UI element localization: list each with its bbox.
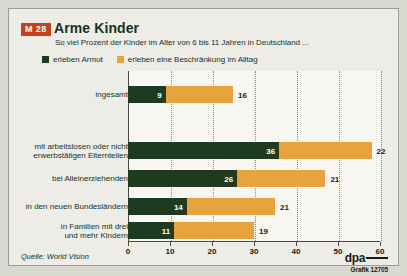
bar-value-beschraenkung: 22 bbox=[377, 146, 386, 155]
bar-segment-beschraenkung bbox=[166, 86, 233, 103]
category-label-line: und mehr Kindern bbox=[13, 231, 128, 240]
dpa-logo-text: dpa bbox=[345, 252, 365, 264]
bar-value-beschraenkung: 19 bbox=[259, 226, 268, 235]
legend-label: erleben Armut bbox=[53, 55, 103, 64]
x-tick-60 bbox=[380, 242, 381, 246]
bar-value-armut: 14 bbox=[174, 202, 183, 211]
bar-segment-beschraenkung bbox=[279, 142, 371, 159]
bar-value-armut: 9 bbox=[157, 90, 161, 99]
legend-label: erleben eine Beschränkung im Alltag bbox=[128, 55, 258, 64]
legend-swatch-icon bbox=[117, 56, 124, 63]
bar-segment-armut: 11 bbox=[128, 222, 174, 239]
chart-subtitle: So viel Prozent der Kinder im Alter von … bbox=[55, 38, 309, 47]
bar-segment-beschraenkung bbox=[237, 170, 325, 187]
category-label: in den neuen Bundesländern bbox=[13, 202, 132, 211]
bar-segment-armut: 14 bbox=[128, 198, 187, 215]
x-tick-label-20: 20 bbox=[208, 247, 217, 256]
chart-row: bei Alleinerziehenden2621 bbox=[9, 170, 400, 187]
x-tick-label-60: 60 bbox=[376, 247, 385, 256]
category-label-line: ingesamt bbox=[13, 90, 128, 99]
x-tick-50 bbox=[338, 242, 339, 246]
bar-value-armut: 11 bbox=[162, 226, 170, 235]
bar-value-armut: 26 bbox=[224, 174, 233, 183]
page-title: Arme Kinder bbox=[54, 20, 139, 36]
bar-value-beschraenkung: 16 bbox=[238, 90, 247, 99]
chart-row: in Familien mit dreiund mehr Kindern1119 bbox=[9, 222, 400, 239]
x-tick-10 bbox=[170, 242, 171, 246]
x-tick-label-10: 10 bbox=[166, 247, 175, 256]
category-label: mit arbeitslosen oder nichterwerbstätige… bbox=[13, 142, 132, 160]
category-label-line: mit arbeitslosen oder nicht bbox=[13, 142, 128, 151]
category-label: bei Alleinerziehenden bbox=[13, 174, 132, 183]
bar-segment-armut: 36 bbox=[128, 142, 279, 159]
category-label-line: in Familien mit drei bbox=[13, 222, 128, 231]
bar-segment-beschraenkung bbox=[174, 222, 254, 239]
bar-value-beschraenkung: 21 bbox=[330, 174, 339, 183]
chart-row: in den neuen Bundesländern1421 bbox=[9, 198, 400, 215]
infographic-card: M 28 Arme Kinder So viel Prozent der Kin… bbox=[8, 8, 399, 266]
x-tick-label-0: 0 bbox=[126, 247, 130, 256]
module-badge: M 28 bbox=[21, 23, 51, 36]
chart-row: ingesamt916 bbox=[9, 86, 400, 103]
category-label: ingesamt bbox=[13, 90, 132, 99]
dpa-logo-rule bbox=[366, 257, 388, 259]
category-label-line: erwerbstätigen Elternteilen bbox=[13, 151, 128, 160]
category-label-line: bei Alleinerziehenden bbox=[13, 174, 128, 183]
bar-segment-armut: 26 bbox=[128, 170, 237, 187]
x-tick-label-40: 40 bbox=[292, 247, 301, 256]
x-tick-20 bbox=[212, 242, 213, 246]
bar-value-armut: 36 bbox=[266, 146, 275, 155]
bar-segment-armut: 9 bbox=[128, 86, 166, 103]
bar-segment-beschraenkung bbox=[187, 198, 275, 215]
legend-item-1: erleben eine Beschränkung im Alltag bbox=[117, 55, 258, 64]
category-label-line: in den neuen Bundesländern bbox=[13, 202, 128, 211]
graphic-number: Grafik 12705 bbox=[345, 266, 388, 274]
x-tick-30 bbox=[254, 242, 255, 246]
chart-legend: erleben Armuterleben eine Beschränkung i… bbox=[42, 55, 267, 64]
x-tick-label-50: 50 bbox=[334, 247, 343, 256]
x-tick-40 bbox=[296, 242, 297, 246]
source-note: Quelle: World Vision bbox=[21, 252, 89, 261]
chart-row: mit arbeitslosen oder nichterwerbstätige… bbox=[9, 142, 400, 159]
legend-swatch-icon bbox=[42, 56, 49, 63]
x-tick-0 bbox=[128, 242, 129, 246]
category-label: in Familien mit dreiund mehr Kindern bbox=[13, 222, 132, 240]
bar-value-beschraenkung: 21 bbox=[280, 202, 289, 211]
x-tick-label-30: 30 bbox=[250, 247, 259, 256]
legend-item-0: erleben Armut bbox=[42, 55, 103, 64]
